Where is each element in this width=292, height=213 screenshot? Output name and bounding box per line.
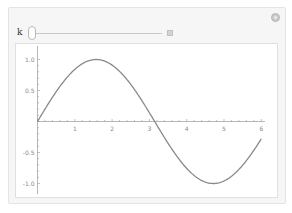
x-tick-label: 1: [73, 125, 77, 132]
y-tick-label: -0.5: [23, 149, 35, 156]
x-tick-labels: 123456: [73, 125, 263, 132]
x-tick-label: 2: [110, 125, 114, 132]
x-tick-label: 5: [222, 125, 226, 132]
y-tick-label: 0.5: [25, 87, 35, 94]
y-tick-label: -1.0: [23, 180, 35, 187]
sine-plot: 123456 1.00.5-0.5-1.0: [0, 0, 292, 213]
x-tick-label: 6: [259, 125, 263, 132]
y-tick-labels: 1.00.5-0.5-1.0: [23, 56, 35, 187]
y-tick-label: 1.0: [25, 56, 35, 63]
x-ticks: [38, 119, 262, 122]
x-tick-label: 3: [147, 125, 151, 132]
x-tick-label: 4: [185, 125, 189, 132]
